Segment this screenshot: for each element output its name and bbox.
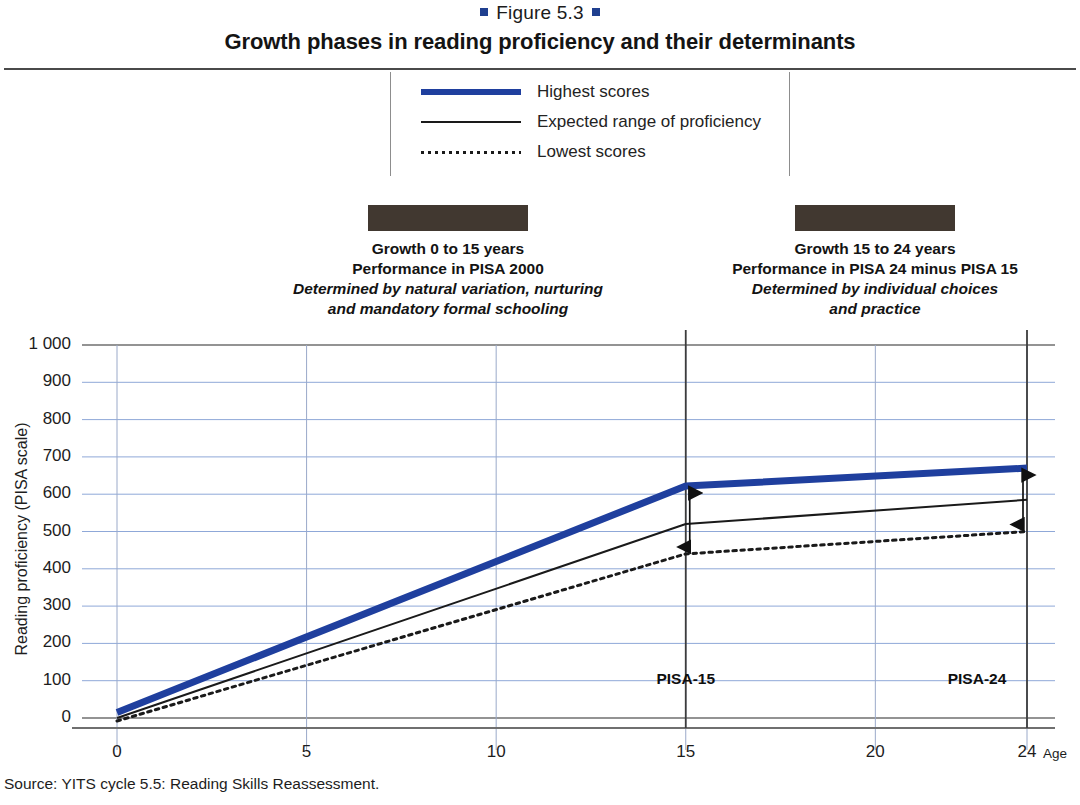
x-axis-tick-label: 5 <box>302 742 311 762</box>
legend-label: Expected range of proficiency <box>537 112 761 132</box>
series-line-highest-scores <box>117 468 1027 712</box>
figure-page: Figure 5.3 Growth phases in reading prof… <box>0 0 1080 805</box>
phase-block-growth-15-24: Growth 15 to 24 years Performance in PIS… <box>700 205 1050 319</box>
legend-swatch-lowest-scores-icon <box>421 145 521 159</box>
legend-item-lowest-scores: Lowest scores <box>421 140 646 164</box>
legend-swatch-highest-scores-icon <box>421 85 521 99</box>
pisa-marker-label: PISA-15 <box>656 670 715 688</box>
x-axis-tick-label: 24 <box>1018 742 1037 762</box>
x-axis-tick-label: 20 <box>866 742 885 762</box>
y-axis-tick-label: 300 <box>0 595 71 615</box>
legend-item-highest-scores: Highest scores <box>421 80 649 104</box>
y-axis-tick-label: 200 <box>0 632 71 652</box>
legend-swatch-expected-range-icon <box>421 115 521 129</box>
figure-number: Figure 5.3 <box>0 2 1080 24</box>
x-axis-tick-label: 0 <box>112 742 121 762</box>
phase-bar <box>795 205 955 231</box>
y-axis-tick-label: 500 <box>0 521 71 541</box>
x-axis-tick-label: 15 <box>676 742 695 762</box>
phase-detail-line-2: and practice <box>700 299 1050 319</box>
legend-label: Highest scores <box>537 82 649 102</box>
phase-subtitle: Performance in PISA 24 minus PISA 15 <box>700 259 1050 279</box>
legend-label: Lowest scores <box>537 142 646 162</box>
x-axis-title: Age <box>1043 746 1067 761</box>
header-divider <box>4 68 1076 70</box>
square-bullet-icon <box>592 8 600 16</box>
figure-number-text: Figure 5.3 <box>496 2 584 23</box>
phase-detail-line-2: and mandatory formal schooling <box>283 299 613 319</box>
chart-plot-area: Reading proficiency (PISA scale) Age 010… <box>0 330 1080 805</box>
source-note: Source: YITS cycle 5.5: Reading Skills R… <box>4 775 379 793</box>
pisa-marker-label: PISA-24 <box>948 670 1007 688</box>
series-line-lowest-scores <box>117 532 1027 721</box>
y-axis-tick-label: 900 <box>0 371 71 391</box>
square-bullet-icon <box>480 8 488 16</box>
y-axis-tick-label: 800 <box>0 409 71 429</box>
phase-bar <box>368 205 528 231</box>
phase-detail-line-1: Determined by natural variation, nurturi… <box>283 279 613 299</box>
y-axis-tick-label: 100 <box>0 670 71 690</box>
phase-subtitle: Performance in PISA 2000 <box>283 259 613 279</box>
phase-detail-line-1: Determined by individual choices <box>700 279 1050 299</box>
legend-item-expected-range: Expected range of proficiency <box>421 110 761 134</box>
phase-title: Growth 15 to 24 years <box>700 239 1050 259</box>
y-axis-tick-label: 400 <box>0 558 71 578</box>
phase-block-growth-0-15: Growth 0 to 15 years Performance in PISA… <box>283 205 613 319</box>
y-axis-tick-label: 600 <box>0 483 71 503</box>
chart-canvas <box>0 330 1080 805</box>
chart-legend: Highest scores Expected range of profici… <box>390 72 790 176</box>
page-title: Growth phases in reading proficiency and… <box>0 29 1080 55</box>
y-axis-tick-label: 700 <box>0 446 71 466</box>
y-axis-tick-label: 0 <box>0 707 71 727</box>
x-axis-tick-label: 10 <box>487 742 506 762</box>
phase-title: Growth 0 to 15 years <box>283 239 613 259</box>
y-axis-tick-label: 1 000 <box>0 334 71 354</box>
